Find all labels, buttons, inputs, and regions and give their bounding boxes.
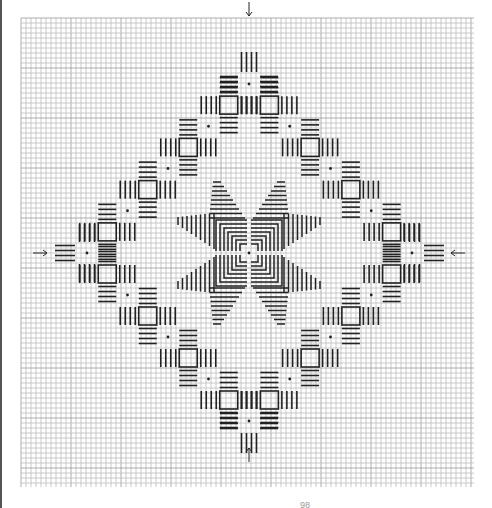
stitch-chart (0, 0, 492, 508)
page-number: 98 (300, 500, 310, 508)
arrow-top-icon (246, 2, 252, 16)
arrow-right-icon (451, 250, 465, 256)
arrow-left-icon (33, 250, 47, 256)
grid-paper (21, 18, 474, 487)
